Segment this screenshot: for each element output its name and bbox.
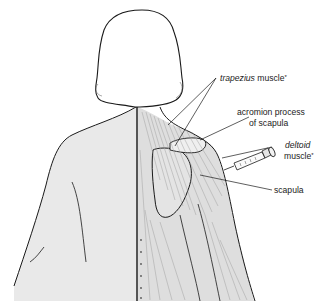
label-trapezius-rest: muscle xyxy=(255,73,285,83)
left-back-body xyxy=(14,107,137,301)
label-deltoid-muscle-text: muscle xyxy=(284,151,311,161)
label-acromion-line2: of scapula xyxy=(249,118,288,128)
syringe-icon xyxy=(224,146,276,170)
label-trapezius-italic: trapezius xyxy=(220,73,255,83)
label-scapula: scapula xyxy=(274,185,304,195)
label-deltoid-line1: deltoid xyxy=(285,140,310,150)
label-trapezius-muscle: trapezius muscle* xyxy=(220,73,287,83)
label-acromion-line1: acromion process xyxy=(237,107,305,117)
label-trapezius-asterisk: * xyxy=(284,74,286,80)
label-deltoid-line2: muscle* xyxy=(284,151,314,161)
label-deltoid-asterisk: * xyxy=(311,152,313,158)
anatomy-diagram: trapezius muscle* acromion process of sc… xyxy=(0,0,327,301)
figure-drawing xyxy=(0,0,327,301)
head-hair xyxy=(96,10,183,107)
